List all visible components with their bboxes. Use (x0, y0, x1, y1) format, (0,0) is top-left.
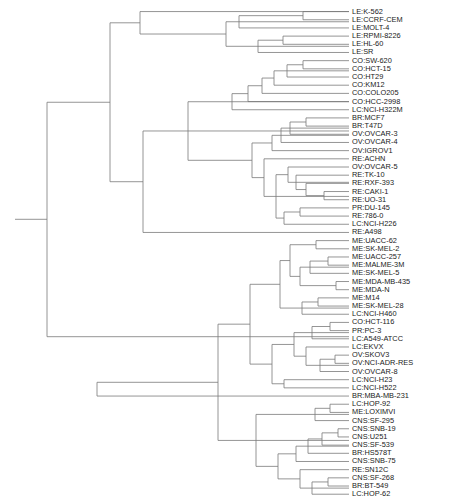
dendrogram-tree (0, 0, 462, 503)
dendrogram-figure: LE:K-562LE:CCRF-CEMLE:MOLT-4LE:RPMI-8226… (0, 0, 462, 503)
tree-branch-lines (15, 12, 349, 495)
